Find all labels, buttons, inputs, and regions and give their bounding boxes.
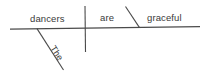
verb-label: are <box>100 12 114 23</box>
baseline-horizontal-line <box>10 27 200 30</box>
predicate-adjective-slant-line <box>126 7 140 28</box>
article-modifier-label: The <box>48 44 65 63</box>
sentence-diagram: dancers are graceful The <box>0 0 209 74</box>
subject-label: dancers <box>30 13 65 24</box>
subject-predicate-divider-line <box>85 6 86 52</box>
complement-label: graceful <box>147 12 182 23</box>
sentence-diagram-canvas: dancers are graceful The <box>0 0 209 74</box>
